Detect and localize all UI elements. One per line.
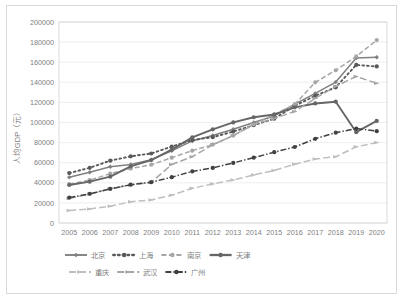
data-point-marker <box>170 148 174 152</box>
x-tick-label: 2019 <box>348 228 364 237</box>
data-point-marker <box>354 54 358 58</box>
data-point-marker <box>375 55 379 59</box>
data-point-marker <box>218 253 222 257</box>
data-point-marker <box>231 129 235 133</box>
y-tick-label: 140000 <box>30 78 54 87</box>
data-point-marker <box>211 127 215 131</box>
x-tick-label: 2010 <box>164 228 180 237</box>
gridlines-group <box>59 22 387 223</box>
data-point-marker <box>67 183 71 187</box>
data-point-marker <box>190 187 196 191</box>
line-chart-plot: 0200004000060000800001000001200001400001… <box>7 6 396 293</box>
data-point-marker <box>108 175 112 179</box>
data-point-marker <box>354 126 358 130</box>
data-point-marker <box>122 253 126 257</box>
data-point-marker <box>129 154 133 158</box>
data-point-marker <box>334 131 338 135</box>
series-上海 <box>67 63 379 175</box>
data-point-marker <box>149 163 153 167</box>
y-tick-label: 200000 <box>30 18 54 27</box>
data-point-marker <box>67 209 73 213</box>
data-point-marker <box>108 204 114 208</box>
series-南京 <box>67 38 379 186</box>
x-tick-label: 2008 <box>123 228 139 237</box>
legend-label-天津: 天津 <box>236 251 251 260</box>
data-point-marker <box>108 164 112 168</box>
data-point-marker <box>87 207 93 211</box>
chart-legend: 北京上海南京天津重庆武汉广州 <box>65 251 251 277</box>
data-point-marker <box>231 161 235 165</box>
data-point-marker <box>375 129 379 133</box>
data-point-marker <box>88 192 92 196</box>
legend-label-重庆: 重庆 <box>95 268 110 277</box>
data-point-marker <box>231 178 237 182</box>
x-tick-label: 2012 <box>205 228 221 237</box>
data-point-marker <box>170 156 174 160</box>
data-point-marker <box>190 135 194 139</box>
x-tick-label: 2020 <box>369 228 385 237</box>
data-point-marker <box>354 75 360 79</box>
x-tick-label: 2005 <box>61 228 77 237</box>
series-line <box>69 143 377 211</box>
data-point-marker <box>67 171 71 175</box>
data-point-marker <box>252 156 256 160</box>
data-point-marker <box>354 130 358 134</box>
legend-label-武汉: 武汉 <box>143 268 158 277</box>
data-point-marker <box>292 110 298 114</box>
x-tick-label: 2006 <box>82 228 98 237</box>
data-point-marker <box>313 80 317 84</box>
data-point-marker <box>375 38 379 42</box>
y-axis-tick-labels: 0200004000060000800001000001200001400001… <box>30 18 54 228</box>
x-tick-label: 2016 <box>287 228 303 237</box>
data-point-marker <box>354 63 358 67</box>
y-tick-label: 100000 <box>30 118 54 127</box>
series-line <box>69 76 377 198</box>
data-point-marker <box>88 170 92 174</box>
series-武汉 <box>67 75 380 201</box>
data-point-marker <box>272 150 276 154</box>
y-tick-label: 180000 <box>30 38 54 47</box>
data-point-marker <box>231 120 235 124</box>
data-point-marker <box>313 157 319 161</box>
data-point-marker <box>375 119 379 123</box>
series-天津 <box>67 100 379 188</box>
data-point-marker <box>170 253 174 257</box>
series-重庆 <box>67 141 380 212</box>
y-tick-label: 60000 <box>34 158 54 167</box>
y-tick-label: 40000 <box>34 178 54 187</box>
x-tick-label: 2014 <box>246 228 262 237</box>
data-point-marker <box>129 164 133 168</box>
data-point-marker <box>374 141 380 145</box>
data-point-marker <box>108 187 112 191</box>
y-tick-label: 120000 <box>30 98 54 107</box>
data-point-marker <box>313 101 317 105</box>
data-point-marker <box>88 166 92 170</box>
legend-label-南京: 南京 <box>187 251 201 260</box>
series-北京 <box>67 55 379 179</box>
x-tick-label: 2017 <box>307 228 323 237</box>
data-point-marker <box>334 68 338 72</box>
data-point-marker <box>334 100 338 104</box>
data-point-marker <box>67 195 71 199</box>
data-point-marker <box>293 145 297 149</box>
data-point-marker <box>174 270 178 274</box>
data-series-group <box>67 38 380 212</box>
y-tick-label: 160000 <box>30 58 54 67</box>
data-point-marker <box>149 151 153 155</box>
data-point-marker <box>272 112 276 116</box>
legend-label-上海: 上海 <box>139 251 154 260</box>
data-point-marker <box>354 145 360 149</box>
data-point-marker <box>108 159 112 163</box>
data-point-marker <box>293 105 297 109</box>
data-point-marker <box>170 175 174 179</box>
x-tick-label: 2011 <box>185 228 200 237</box>
data-point-marker <box>67 175 71 179</box>
y-tick-label: 80000 <box>34 138 54 147</box>
data-point-marker <box>252 115 256 119</box>
x-tick-label: 2007 <box>102 228 118 237</box>
data-point-marker <box>211 135 215 139</box>
legend-label-广州: 广州 <box>191 268 205 277</box>
data-point-marker <box>375 64 379 68</box>
x-tick-label: 2013 <box>225 228 241 237</box>
data-point-marker <box>149 198 155 202</box>
